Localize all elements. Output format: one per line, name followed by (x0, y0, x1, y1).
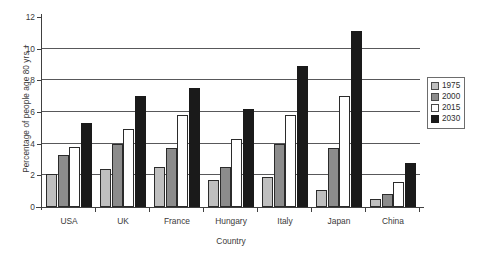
bar (339, 96, 350, 207)
bar-group (312, 17, 366, 207)
legend-swatch (431, 104, 439, 112)
bar-group (258, 17, 312, 207)
legend-item: 1975 (431, 81, 460, 92)
bar (177, 115, 188, 207)
y-axis-tick-label: 2 (30, 170, 35, 180)
y-axis-tick-label: 4 (30, 139, 35, 149)
bar (81, 123, 92, 207)
bar (112, 144, 123, 207)
x-axis-label: France (150, 216, 204, 226)
x-axis-tick (42, 207, 96, 213)
y-axis-tick-label: 0 (30, 202, 35, 212)
x-axis-tick (204, 207, 258, 213)
bar-group (42, 17, 96, 207)
y-axis-tick-label: 12 (26, 12, 35, 22)
bar (46, 174, 57, 207)
x-axis-tick-mark (419, 207, 420, 212)
x-axis-labels: USAUKFranceHungaryItalyJapanChina (42, 216, 420, 226)
bar (393, 182, 404, 207)
legend-label: 2015 (442, 104, 460, 112)
bar (262, 177, 273, 207)
bar-groups (42, 17, 420, 207)
x-axis-tick (366, 207, 420, 213)
bar (100, 169, 111, 207)
legend-swatch (431, 82, 439, 90)
legend-item: 2000 (431, 92, 460, 103)
bar (382, 194, 393, 207)
bar (123, 129, 134, 207)
legend-item: 2015 (431, 103, 460, 114)
bar (220, 167, 231, 207)
x-axis-label: Japan (312, 216, 366, 226)
bar (69, 147, 80, 207)
chart-legend: 1975200020152030 (427, 77, 465, 129)
x-axis-tick (312, 207, 366, 213)
bar (166, 148, 177, 207)
legend-label: 2030 (442, 115, 460, 123)
bar (154, 167, 165, 207)
bar (328, 148, 339, 207)
x-axis-tick (258, 207, 312, 213)
bar-chart: Percentage of people age 80 yrs + 024681… (0, 0, 486, 271)
bar-group (96, 17, 150, 207)
legend-swatch (431, 93, 439, 101)
bar (285, 115, 296, 207)
bar (351, 31, 362, 207)
bar (58, 155, 69, 207)
legend-item: 2030 (431, 114, 460, 125)
bar (297, 66, 308, 207)
x-axis-tick (96, 207, 150, 213)
x-axis-ticks (42, 207, 420, 213)
bar-group (150, 17, 204, 207)
bar (316, 190, 327, 207)
bar (135, 96, 146, 207)
legend-label: 1975 (442, 82, 460, 90)
bar (243, 109, 254, 207)
bar (405, 163, 416, 207)
bar (189, 88, 200, 207)
x-axis-label: Hungary (204, 216, 258, 226)
plot-area: 024681012 (42, 17, 420, 207)
bar (208, 180, 219, 207)
y-axis-tick-label: 10 (26, 44, 35, 54)
x-axis-label: USA (42, 216, 96, 226)
x-axis-tick (150, 207, 204, 213)
y-axis-tick-label: 6 (30, 107, 35, 117)
y-axis-title: Percentage of people age 80 yrs + (22, 9, 31, 209)
bar-group (204, 17, 258, 207)
x-axis-label: UK (96, 216, 150, 226)
x-axis-title: Country (42, 236, 420, 246)
bar (274, 144, 285, 207)
y-axis-tick-label: 8 (30, 75, 35, 85)
bar-group (366, 17, 420, 207)
x-axis-label: China (366, 216, 420, 226)
bar (231, 139, 242, 207)
legend-label: 2000 (442, 93, 460, 101)
x-axis-label: Italy (258, 216, 312, 226)
bar (370, 199, 381, 207)
legend-swatch (431, 115, 439, 123)
